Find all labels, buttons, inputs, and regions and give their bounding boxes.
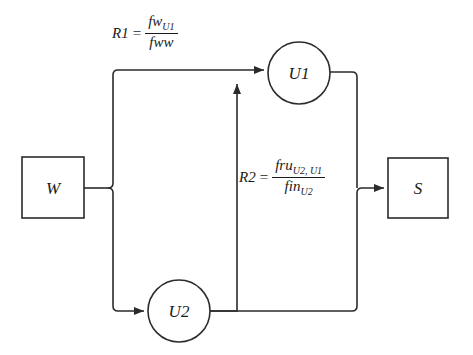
r2-denominator-base: fin: [285, 178, 301, 194]
r2-denominator: finU2: [282, 178, 316, 197]
r2-equals: =: [260, 170, 268, 185]
diagram-canvas-root: W U1 U2 S R1 = fwU1 fww R2 = fruU2: [0, 0, 473, 355]
r1-numerator-base: fw: [148, 13, 162, 29]
node-u1[interactable]: U1: [268, 42, 330, 104]
r1-numerator: fwU1: [145, 14, 177, 33]
r2-numerator-subscript: U2, U1: [293, 165, 322, 176]
edge-w-to-u2: [108, 188, 144, 311]
diagram-svg: W U1 U2 S: [0, 0, 473, 355]
node-u2-label: U2: [169, 302, 190, 321]
edge-u2-to-s: [210, 188, 384, 311]
node-u1-label: U1: [289, 64, 310, 83]
node-w[interactable]: W: [22, 157, 84, 218]
r1-denominator-base: fww: [149, 34, 173, 50]
node-s-label: S: [414, 179, 423, 198]
r1-fraction: fwU1 fww: [145, 14, 177, 53]
r2-numerator-base: fru: [275, 157, 293, 173]
edge-u2-to-u1: [210, 84, 237, 311]
edge-label-r1: R1 = fwU1 fww: [112, 14, 178, 53]
r1-lhs: R1: [112, 26, 129, 41]
edge-u1-to-s: [330, 72, 357, 188]
node-u2[interactable]: U2: [148, 280, 210, 342]
node-w-label: W: [46, 179, 62, 198]
r2-numerator: fruU2, U1: [272, 158, 325, 177]
r2-lhs: R2: [239, 170, 256, 185]
r1-denominator: fww: [146, 34, 176, 53]
r1-numerator-subscript: U1: [162, 21, 174, 32]
edge-label-r2: R2 = fruU2, U1 finU2: [239, 158, 325, 197]
r1-equals: =: [133, 26, 141, 41]
r2-fraction: fruU2, U1 finU2: [272, 158, 325, 197]
r2-denominator-subscript: U2: [300, 186, 312, 197]
node-s[interactable]: S: [388, 158, 448, 218]
